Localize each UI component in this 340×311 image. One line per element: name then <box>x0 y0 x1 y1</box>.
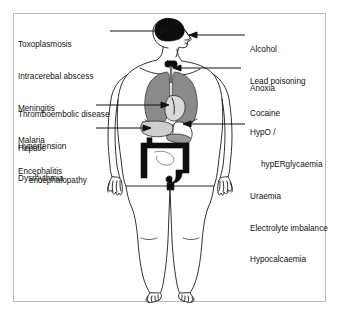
hepatic-causes-label: Hepatic encephalopathy <box>18 123 87 197</box>
label-line: encephalopathy <box>18 176 87 187</box>
label-line: HypO / <box>250 128 328 139</box>
label-line: Uraemia <box>250 192 328 203</box>
label-line: Intracerebal abscess <box>18 72 94 83</box>
label-line: Thromboembolic disease <box>18 110 109 121</box>
label-line: Anoxia <box>250 84 275 95</box>
respiratory-causes-label: Anoxia <box>250 63 275 105</box>
label-line: Electrolyte imbalance <box>250 224 328 235</box>
label-line: Alcohol <box>250 45 306 56</box>
label-line: hypERglycaemia <box>250 160 328 171</box>
label-line: Toxoplasmosis <box>18 40 94 51</box>
metabolic-causes-label: HypO / hypERglycaemia Uraemia Electrolyt… <box>250 107 328 277</box>
label-line: Hepatic <box>18 144 87 155</box>
brain-organ <box>155 18 184 41</box>
label-line: Hypocalcaemia <box>250 255 328 266</box>
